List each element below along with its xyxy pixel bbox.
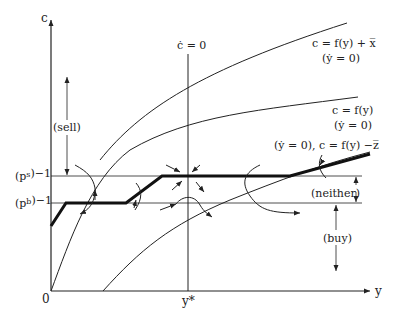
x-axis-label: y xyxy=(374,284,382,298)
sell-label: (sell) xyxy=(53,121,81,134)
neither-label: (neither) xyxy=(311,187,360,200)
phase-diagram: c y 0 y* ċ = 0 (ps)−1 (pb)−1 (sell) xyxy=(0,0,399,323)
y-axis-label: c xyxy=(41,11,48,25)
origin-label: 0 xyxy=(42,292,50,306)
buy-label: (buy) xyxy=(323,232,352,245)
curve-f-minus-z-label: (ẏ = 0), c = f(y) −z̅ xyxy=(274,139,379,152)
trajectory-arrows xyxy=(75,155,326,217)
ps-inverse-label: (ps)−1 xyxy=(15,167,51,183)
curve-f-plus-x-label: c = f(y) + x̅ xyxy=(312,37,376,50)
curve-f-label: c = f(y) xyxy=(332,104,373,117)
curve-f-sublabel: (ẏ = 0) xyxy=(334,119,372,132)
pb-inverse-label: (pb)−1 xyxy=(15,194,52,210)
curve-f-minus-z xyxy=(103,152,370,291)
curve-f-plus-x-sublabel: (ẏ = 0) xyxy=(322,52,360,65)
y-star-label: y* xyxy=(181,294,195,308)
c-dot-zero-label: ċ = 0 xyxy=(177,39,206,52)
